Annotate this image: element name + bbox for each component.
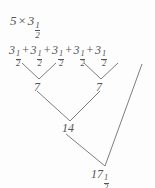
addend-4-whole: 3 (73, 43, 79, 57)
title-multiplier: 5 (10, 13, 17, 28)
addend-3-denominator: 2 (58, 59, 63, 68)
addend-3-numerator: 1 (58, 50, 63, 58)
addend-term-1: 312 (9, 44, 21, 68)
plus-sign-3: + (64, 43, 74, 57)
addend-5-denominator: 2 (101, 59, 106, 68)
plus-sign-4: + (85, 43, 95, 57)
addend-5-numerator: 1 (101, 50, 106, 58)
addend-3-fraction: 12 (58, 50, 63, 68)
connector-14-to-final (66, 134, 105, 166)
addend-term-4: 312 (73, 44, 85, 68)
final-whole-part: 17 (91, 167, 103, 181)
connector-7b-to-14 (70, 91, 100, 121)
addend-3-whole: 3 (52, 43, 58, 57)
addend-5-whole: 3 (95, 43, 101, 57)
addend-term-5: 312 (95, 44, 107, 68)
expression-title: 5×312 (10, 14, 40, 40)
addend-term-2: 312 (30, 44, 42, 68)
plus-sign-2: + (42, 43, 52, 57)
connector-7a-to-14 (37, 91, 70, 121)
final-mixed-number: 1712 (91, 168, 109, 188)
addend-1-fraction: 12 (16, 50, 21, 68)
addend-4-denominator: 2 (80, 59, 85, 68)
final-fraction: 12 (104, 174, 109, 188)
multiplication-sign: × (17, 13, 28, 28)
node-partial-sum-left: 7 (34, 81, 40, 93)
addend-1-numerator: 1 (16, 50, 21, 58)
title-denominator: 2 (35, 30, 41, 40)
node-partial-sum-total: 14 (62, 122, 74, 134)
node-partial-sum-right: 7 (96, 81, 102, 93)
connector-term5-to-final (105, 64, 142, 166)
final-denominator: 2 (104, 183, 109, 188)
title-mixed-number: 312 (28, 14, 41, 40)
addend-2-whole: 3 (30, 43, 36, 57)
title-whole-part: 3 (28, 13, 35, 28)
repeated-addition-row: 312+312+312+312+312 (9, 44, 107, 68)
plus-sign-1: + (21, 43, 31, 57)
node-final-result: 1712 (91, 168, 109, 188)
addend-5-fraction: 12 (101, 50, 106, 68)
title-numerator: 1 (35, 21, 41, 30)
title-fraction: 12 (35, 21, 41, 40)
addend-1-denominator: 2 (16, 59, 21, 68)
addend-1-whole: 3 (9, 43, 15, 57)
addend-2-denominator: 2 (37, 59, 42, 68)
final-numerator: 1 (104, 174, 109, 182)
addend-term-3: 312 (52, 44, 64, 68)
